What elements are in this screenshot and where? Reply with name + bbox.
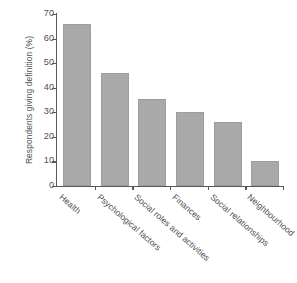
y-tick-label: 50 xyxy=(44,57,54,67)
x-axis-tick-label: Social roles and activities xyxy=(133,192,212,263)
x-axis-tick-label: Psychological factors xyxy=(95,192,162,253)
plot-area: 706050403020100 xyxy=(57,14,283,186)
bar-chart: Respondents giving definition (%) 706050… xyxy=(0,0,297,283)
bar xyxy=(176,112,204,186)
bar xyxy=(63,24,91,186)
y-tick-label: 30 xyxy=(44,106,54,116)
y-axis-title: Respondents giving definition (%) xyxy=(24,10,34,190)
y-tick-label: 0 xyxy=(49,180,54,190)
y-tick-label: 60 xyxy=(44,33,54,43)
x-axis-labels: HealthPsychological factorsSocial roles … xyxy=(57,190,297,280)
x-axis-tick-label: Finances xyxy=(170,192,203,222)
y-tick-label: 70 xyxy=(44,8,54,18)
bar xyxy=(138,99,166,186)
y-tick-label: 40 xyxy=(44,82,54,92)
y-tick-label: 10 xyxy=(44,155,54,165)
y-tick-label: 20 xyxy=(44,131,54,141)
bar xyxy=(214,122,242,186)
bar xyxy=(101,73,129,186)
x-axis-tick-label: Health xyxy=(57,192,82,216)
bar xyxy=(251,161,279,186)
